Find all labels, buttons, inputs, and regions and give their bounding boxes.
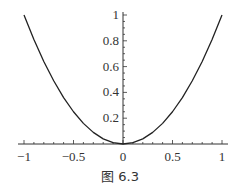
y-tick-label: 1 (113, 7, 120, 22)
axes (18, 12, 228, 144)
figure-caption: 图 6.3 (0, 166, 240, 185)
chart: −1−0.500.510.20.40.60.81 (0, 0, 240, 194)
x-tick-label: −0.5 (62, 149, 86, 164)
y-tick-label: 0.6 (103, 59, 120, 74)
y-tick-label: 0.2 (103, 110, 119, 125)
tick-labels: −1−0.500.510.20.40.60.81 (17, 7, 225, 164)
y-tick-label: 0.4 (103, 84, 120, 99)
x-tick-label: 1 (219, 149, 226, 164)
x-tick-label: 0.5 (164, 149, 180, 164)
x-tick-label: 0 (120, 149, 127, 164)
y-tick-label: 0.8 (103, 33, 119, 48)
x-tick-label: −1 (17, 149, 31, 164)
